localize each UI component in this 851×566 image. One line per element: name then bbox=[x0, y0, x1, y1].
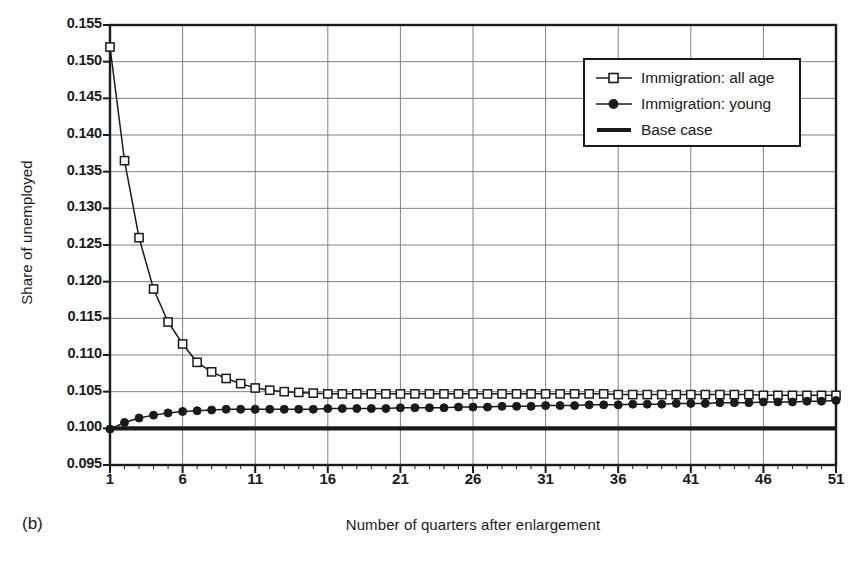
legend-label-all-age: Immigration: all age bbox=[641, 69, 774, 87]
data-point-marker bbox=[527, 390, 535, 398]
data-point-marker bbox=[469, 390, 477, 398]
data-point-marker bbox=[483, 390, 491, 398]
data-point-marker bbox=[396, 404, 404, 412]
panel-caption: (b) bbox=[22, 514, 43, 534]
y-tick-label: 0.130 bbox=[36, 198, 102, 214]
y-tick-label: 0.095 bbox=[36, 455, 102, 471]
data-point-marker bbox=[803, 397, 811, 405]
data-point-marker bbox=[817, 397, 825, 405]
x-tick-label: 6 bbox=[163, 470, 203, 487]
data-point-marker bbox=[687, 391, 695, 399]
data-point-marker bbox=[484, 403, 492, 411]
y-tick-label: 0.110 bbox=[36, 345, 102, 361]
data-point-marker bbox=[367, 405, 375, 413]
legend-label-young: Immigration: young bbox=[641, 95, 771, 113]
data-point-marker bbox=[193, 358, 201, 366]
data-point-marker bbox=[193, 407, 201, 415]
data-point-marker bbox=[135, 234, 143, 242]
data-point-marker bbox=[759, 398, 767, 406]
x-tick-label: 11 bbox=[235, 470, 275, 487]
data-point-marker bbox=[542, 402, 550, 410]
data-point-marker bbox=[266, 405, 274, 413]
data-point-marker bbox=[716, 391, 724, 399]
data-point-marker bbox=[251, 384, 259, 392]
data-point-marker bbox=[629, 400, 637, 408]
x-tick-label: 1 bbox=[90, 470, 130, 487]
data-point-marker bbox=[512, 390, 520, 398]
x-tick-label: 26 bbox=[453, 470, 493, 487]
x-tick-label: 51 bbox=[816, 470, 851, 487]
x-tick-label: 36 bbox=[598, 470, 638, 487]
legend-entry-base-case: Base case bbox=[595, 117, 712, 143]
data-point-marker bbox=[208, 406, 216, 414]
data-point-marker bbox=[425, 390, 433, 398]
data-point-marker bbox=[600, 390, 608, 398]
legend-label-base-case: Base case bbox=[641, 121, 712, 139]
data-point-marker bbox=[425, 404, 433, 412]
data-point-marker bbox=[324, 405, 332, 413]
data-point-marker bbox=[614, 401, 622, 409]
data-point-marker bbox=[701, 399, 709, 407]
data-point-marker bbox=[150, 411, 158, 419]
data-point-marker bbox=[367, 390, 375, 398]
data-point-marker bbox=[309, 405, 317, 413]
data-point-marker bbox=[222, 374, 230, 382]
data-point-marker bbox=[440, 404, 448, 412]
data-point-marker bbox=[774, 398, 782, 406]
data-point-marker bbox=[454, 390, 462, 398]
data-point-marker bbox=[672, 399, 680, 407]
data-point-marker bbox=[237, 405, 245, 413]
data-point-marker bbox=[629, 391, 637, 399]
data-point-marker bbox=[556, 390, 564, 398]
open-square-marker-icon bbox=[595, 68, 633, 88]
legend-entry-all-age: Immigration: all age bbox=[595, 65, 774, 91]
data-point-marker bbox=[454, 403, 462, 411]
thick-line-marker-icon bbox=[595, 120, 633, 140]
data-point-marker bbox=[149, 285, 157, 293]
data-point-marker bbox=[251, 405, 259, 413]
data-point-marker bbox=[164, 409, 172, 417]
y-tick-label: 0.140 bbox=[36, 125, 102, 141]
y-axis-title: Share of unemployed bbox=[18, 103, 35, 363]
data-point-marker bbox=[730, 391, 738, 399]
data-point-marker bbox=[745, 399, 753, 407]
data-point-marker bbox=[658, 391, 666, 399]
data-point-marker bbox=[585, 390, 593, 398]
data-point-marker bbox=[716, 399, 724, 407]
data-point-marker bbox=[120, 157, 128, 165]
data-point-marker bbox=[643, 391, 651, 399]
data-point-marker bbox=[179, 340, 187, 348]
data-point-marker bbox=[338, 405, 346, 413]
data-point-marker bbox=[542, 390, 550, 398]
data-point-marker bbox=[280, 388, 288, 396]
data-point-marker bbox=[440, 390, 448, 398]
data-point-marker bbox=[237, 380, 245, 388]
filled-circle-marker-icon bbox=[595, 94, 633, 114]
data-point-marker bbox=[832, 396, 840, 404]
data-point-marker bbox=[571, 402, 579, 410]
x-tick-label: 46 bbox=[743, 470, 783, 487]
data-point-marker bbox=[382, 405, 390, 413]
y-tick-label: 0.115 bbox=[36, 308, 102, 324]
data-point-marker bbox=[745, 391, 753, 399]
data-point-marker bbox=[411, 390, 419, 398]
x-tick-label: 16 bbox=[308, 470, 348, 487]
data-point-marker bbox=[353, 390, 361, 398]
data-point-marker bbox=[411, 404, 419, 412]
y-tick-label: 0.135 bbox=[36, 162, 102, 178]
data-point-marker bbox=[222, 405, 230, 413]
data-point-marker bbox=[164, 318, 172, 326]
x-tick-label: 41 bbox=[671, 470, 711, 487]
y-tick-label: 0.120 bbox=[36, 272, 102, 288]
data-point-marker bbox=[687, 399, 695, 407]
data-point-marker bbox=[788, 398, 796, 406]
data-point-marker bbox=[266, 386, 274, 394]
data-point-marker bbox=[121, 418, 129, 426]
data-point-marker bbox=[513, 402, 521, 410]
y-tick-label: 0.105 bbox=[36, 382, 102, 398]
y-tick-label: 0.125 bbox=[36, 235, 102, 251]
data-point-marker bbox=[338, 390, 346, 398]
data-point-marker bbox=[571, 390, 579, 398]
data-point-marker bbox=[600, 401, 608, 409]
data-point-marker bbox=[396, 390, 404, 398]
